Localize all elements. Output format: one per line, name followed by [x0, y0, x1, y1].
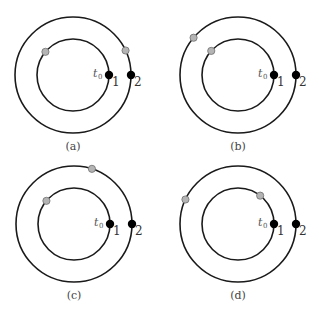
body-1-later-position [43, 197, 50, 204]
body-2-label: 2 [135, 224, 143, 238]
body-1-label: 1 [112, 75, 120, 89]
body-2-later-position [182, 196, 189, 203]
body-1-label: 1 [277, 224, 285, 238]
body-1-later-position [257, 192, 264, 199]
body-1-later-position [208, 47, 215, 54]
panel-caption-b: (b) [230, 140, 246, 153]
body-2-label: 2 [299, 224, 307, 238]
body-2-later-position [88, 165, 95, 172]
body-1-label: 1 [277, 75, 285, 89]
panel-b: t012(b) [180, 17, 307, 153]
body-1-label: 1 [113, 224, 121, 238]
body-2-later-position [190, 34, 197, 41]
panel-d: t012(d) [180, 166, 307, 302]
panel-a: t012(a) [15, 17, 142, 153]
t0-subscript: 0 [98, 73, 102, 81]
panel-c: t012(c) [16, 165, 143, 302]
panel-caption-a: (a) [65, 140, 80, 153]
body-1-later-position [42, 48, 49, 55]
t0-subscript: 0 [263, 222, 267, 230]
body-2-label: 2 [134, 75, 142, 89]
body-2-later-position [122, 47, 129, 54]
panel-caption-c: (c) [67, 289, 82, 302]
body-2-label: 2 [299, 75, 307, 89]
t0-subscript: 0 [263, 73, 267, 81]
t0-subscript: 0 [99, 222, 103, 230]
orbit-diagram-figure: t012(a)t012(b)t012(c)t012(d) [0, 0, 319, 310]
panel-caption-d: (d) [230, 289, 246, 302]
